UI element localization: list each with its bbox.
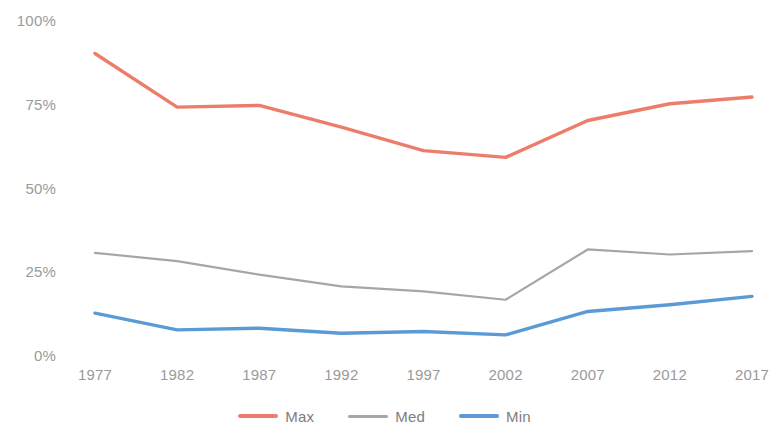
series-canvas xyxy=(0,0,769,432)
line-chart: 0%25%50%75%100% 197719821987199219972002… xyxy=(0,0,769,432)
legend-label: Max xyxy=(285,408,314,425)
legend-swatch-max-icon xyxy=(238,414,278,418)
legend-item-min[interactable]: Min xyxy=(459,408,531,425)
plot-area xyxy=(0,0,769,432)
series-line-med xyxy=(95,249,752,299)
legend-swatch-med-icon xyxy=(348,415,388,418)
legend-label: Min xyxy=(506,408,531,425)
legend-item-med[interactable]: Med xyxy=(348,408,425,425)
legend-swatch-min-icon xyxy=(459,414,499,418)
legend-item-max[interactable]: Max xyxy=(238,408,314,425)
series-line-min xyxy=(95,296,752,335)
chart-legend: MaxMedMin xyxy=(0,400,769,432)
legend-label: Med xyxy=(395,408,425,425)
series-line-max xyxy=(95,54,752,158)
